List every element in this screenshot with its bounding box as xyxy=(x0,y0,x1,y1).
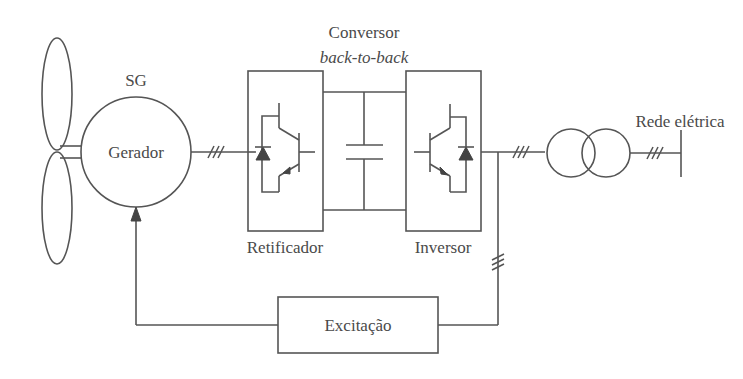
diode-icon xyxy=(256,147,270,160)
blade-lower xyxy=(42,152,72,264)
turbine-blades-icon xyxy=(42,38,72,264)
blade-upper xyxy=(42,38,72,150)
generator-label: Gerador xyxy=(108,143,164,162)
transformer-icon xyxy=(547,129,630,177)
diode-icon xyxy=(459,147,473,160)
igbt-arrow-icon xyxy=(440,167,448,175)
igbt-arrow-icon xyxy=(283,167,290,174)
grid-line xyxy=(630,130,681,177)
converter-subtitle: back-to-back xyxy=(320,48,409,67)
ac-line-generator xyxy=(191,146,248,158)
excitation-label: Excitação xyxy=(324,316,391,335)
grid-label: Rede elétrica xyxy=(635,112,725,131)
rectifier-block xyxy=(248,71,323,231)
generator-type-label: SG xyxy=(125,71,147,90)
inverter-block xyxy=(406,71,545,231)
rectifier-label: Retificador xyxy=(247,238,324,257)
wind-generator-diagram: SG Gerador Conversor back-to-back Retifi… xyxy=(0,0,743,379)
arrow-up-icon xyxy=(131,207,141,221)
converter-title: Conversor xyxy=(329,23,400,42)
inverter-label: Inversor xyxy=(415,238,472,257)
ac-line-inverter xyxy=(513,146,529,158)
dc-link xyxy=(323,92,406,210)
